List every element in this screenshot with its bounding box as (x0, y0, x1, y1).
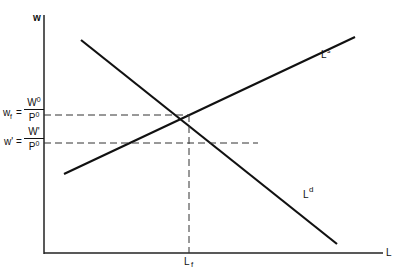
supply-curve-label: L (321, 50, 327, 60)
y-axis-label: w (33, 13, 41, 23)
lower-wage-prefix: w' (4, 137, 13, 147)
lower-wage-numerator: W' (28, 126, 39, 137)
equilibrium-labor-label: L (184, 257, 190, 267)
equilibrium-wage-fraction: W0 P0 (24, 96, 44, 124)
demand-curve-superscript: d (309, 186, 313, 194)
num-sup: 0 (37, 96, 41, 103)
fraction-bar (24, 138, 44, 139)
diagram-canvas (0, 0, 396, 279)
equilibrium-wage-sub: f (10, 113, 12, 120)
den-sup: 0 (35, 111, 39, 118)
lower-wage-denominator: P0 (29, 140, 40, 152)
wage-numerator: W0 (27, 96, 40, 108)
x-axis-label: L (386, 248, 392, 258)
equilibrium-labor-sub: f (191, 261, 193, 269)
den-sup: 0 (35, 140, 39, 147)
wage-denominator: P0 (29, 111, 40, 123)
labor-supply-curve (64, 37, 355, 174)
fraction-bar (24, 109, 44, 110)
demand-curve-label: L (303, 190, 309, 200)
lower-wage-fraction: W' P0 (24, 126, 44, 152)
equilibrium-wage-eq: = (16, 108, 22, 118)
labor-demand-curve (81, 40, 337, 244)
num-text: W (27, 97, 36, 108)
supply-curve-superscript: s (327, 47, 331, 54)
lower-wage-eq: = (16, 137, 22, 147)
